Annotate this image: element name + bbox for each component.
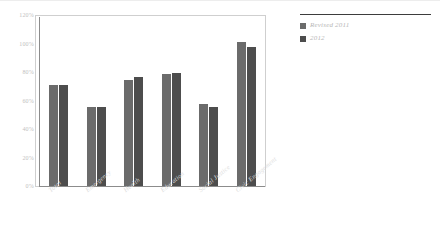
bar-group xyxy=(228,16,266,186)
legend-label-series-1: Revised 2011 xyxy=(310,22,349,29)
chart-legend: Revised 2011 2012 xyxy=(300,14,432,47)
y-axis-tick-label: 20% xyxy=(4,155,34,161)
bar[interactable] xyxy=(49,85,58,186)
y-axis-tick-label: 80% xyxy=(4,69,34,75)
bar[interactable] xyxy=(162,74,171,186)
bar-chart: 0%20%40%60%80%100%120% TotalEmergencyHea… xyxy=(0,0,290,248)
bar-group xyxy=(153,16,191,186)
plot-area xyxy=(40,16,265,186)
legend-swatch-icon-series-1 xyxy=(300,23,306,29)
legend-item-series-2[interactable]: 2012 xyxy=(300,34,432,43)
bar[interactable] xyxy=(87,107,96,186)
legend-label-series-2: 2012 xyxy=(310,35,325,42)
bar[interactable] xyxy=(124,80,133,186)
x-axis-line xyxy=(39,186,265,187)
y-axis-tick-label: 100% xyxy=(4,41,34,47)
y-axis-tick-label: 60% xyxy=(4,98,34,104)
bar-group xyxy=(78,16,116,186)
bar-group xyxy=(40,16,78,186)
x-axis-category-labels: TotalEmergencyHealthEducationSocial Just… xyxy=(40,188,265,246)
legend-swatch-icon-series-2 xyxy=(300,36,306,42)
legend-divider xyxy=(300,14,431,15)
bar[interactable] xyxy=(134,77,143,186)
y-axis-tick-labels: 0%20%40%60%80%100%120% xyxy=(2,15,34,187)
bar[interactable] xyxy=(59,85,68,186)
bar-group xyxy=(115,16,153,186)
bar[interactable] xyxy=(172,73,181,186)
y-axis-tick-label: 0% xyxy=(4,183,34,189)
y-axis-tick-label: 40% xyxy=(4,126,34,132)
legend-item-series-1[interactable]: Revised 2011 xyxy=(300,21,432,30)
bar[interactable] xyxy=(237,42,246,187)
bar[interactable] xyxy=(199,104,208,186)
bar-group xyxy=(190,16,228,186)
bar[interactable] xyxy=(247,47,256,186)
y-axis-tick-label: 120% xyxy=(4,12,34,18)
